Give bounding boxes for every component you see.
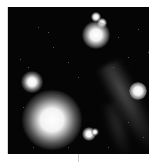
star [129,82,147,100]
faint-star [68,147,69,148]
star [22,90,82,150]
star [91,128,99,136]
faint-star [138,29,139,30]
star [82,21,110,49]
space-image [7,7,149,154]
faint-star [128,122,129,123]
faint-star [33,147,34,148]
faint-star [38,27,39,28]
faint-star [68,62,69,63]
faint-star [53,47,54,48]
faint-star [78,77,79,78]
faint-star [58,95,59,96]
faint-star [118,37,119,38]
faint-star [108,147,109,148]
faint-star [128,57,129,58]
faint-star [143,137,144,138]
faint-star [148,52,149,53]
faint-star [113,67,114,68]
faint-star [23,107,24,108]
faint-star [48,32,49,33]
star [21,71,43,93]
divider-tick [78,154,79,162]
faint-star [20,59,21,60]
faint-star [28,67,29,68]
